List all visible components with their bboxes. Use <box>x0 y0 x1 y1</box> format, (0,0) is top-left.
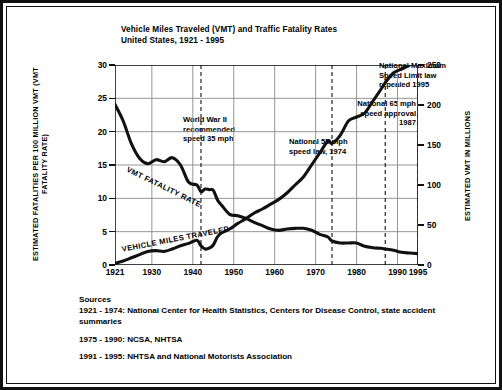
y-tick-left-20: 20 <box>85 127 107 137</box>
chart-svg <box>115 65 418 265</box>
y-tick-left-10: 10 <box>85 193 107 203</box>
x-tick-1995: 1995 <box>398 267 438 277</box>
y-tick-mark-right <box>418 264 424 266</box>
chart-title-line2: United States, 1921 - 1995 <box>121 36 441 47</box>
x-tick-1980: 1980 <box>337 267 377 277</box>
y-tick-mark-right <box>418 224 424 226</box>
y-tick-left-5: 5 <box>85 227 107 237</box>
y-tick-mark-right <box>418 144 424 146</box>
gridlines <box>115 65 418 265</box>
y-tick-right-200: 200 <box>427 100 453 110</box>
x-tick-1940: 1940 <box>173 267 213 277</box>
x-tick-1930: 1930 <box>132 267 172 277</box>
y-tick-left-25: 25 <box>85 93 107 103</box>
sources-entry-2: 1975 - 1990: NCSA, NHTSA <box>79 334 479 345</box>
y-tick-right-50: 50 <box>427 220 453 230</box>
y-tick-mark-right <box>418 184 424 186</box>
figure-frame: Vehicle Miles Traveled (VMT) and Traffic… <box>0 0 502 390</box>
y-tick-left-15: 15 <box>85 160 107 170</box>
plot-area: VMT FATALITY RATE VEHICLE MILES TRAVELED <box>115 65 418 265</box>
y-tick-left-30: 30 <box>85 60 107 70</box>
sources-block: Sources 1921 - 1974: National Center for… <box>79 294 479 362</box>
x-tick-1970: 1970 <box>296 267 336 277</box>
y-tick-right-150: 150 <box>427 140 453 150</box>
sources-entry-3: 1991 - 1995: NHTSA and National Motorist… <box>79 351 479 362</box>
y-axis-left-label: ESTIMATED FATALITIES PER 100 MILLION VMT… <box>31 59 51 269</box>
x-tick-1921: 1921 <box>95 267 135 277</box>
x-tick-1950: 1950 <box>214 267 254 277</box>
chart-title-line1: Vehicle Miles Traveled (VMT) and Traffic… <box>121 25 441 36</box>
sources-heading: Sources <box>79 294 479 305</box>
chart-title: Vehicle Miles Traveled (VMT) and Traffic… <box>121 25 441 46</box>
figure-inner: Vehicle Miles Traveled (VMT) and Traffic… <box>11 11 497 385</box>
y-axis-right-label: ESTIMATED VMT IN MILLIONS <box>463 91 475 241</box>
sources-entry-1: 1921 - 1974: National Center for Health … <box>79 305 479 327</box>
y-tick-mark-right <box>418 104 424 106</box>
series-line-vmt <box>115 65 418 263</box>
y-tick-right-100: 100 <box>427 180 453 190</box>
x-tick-1960: 1960 <box>255 267 295 277</box>
